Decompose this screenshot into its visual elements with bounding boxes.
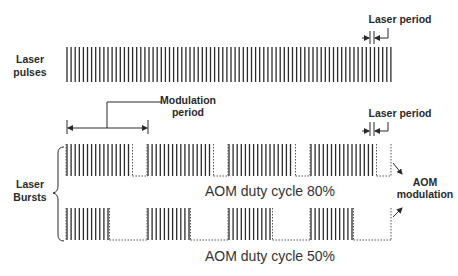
modulation-period-label-line2: period <box>172 106 204 118</box>
laser-bursts-label-line1: Laser <box>16 178 44 190</box>
aom-modulation-label-line1: AOM <box>413 176 438 188</box>
burst-row-duty-80 <box>66 144 391 176</box>
duty-cycle-50-caption: AOM duty cycle 50% <box>205 248 335 264</box>
laser-pulses-label-line2: pulses <box>13 66 46 78</box>
laser-pulses-label-line1: Laser <box>16 53 44 65</box>
laser-bursts-label-line2: Bursts <box>13 191 46 203</box>
modulation-period-dimension <box>67 102 162 134</box>
aom-modulation-label-line2: modulation <box>397 188 454 200</box>
duty-cycle-80-caption: AOM duty cycle 80% <box>205 183 335 199</box>
laser-period-dimension-bottom <box>362 122 388 136</box>
laser-period-label-bottom: Laser period <box>368 107 431 119</box>
modulation-period-label-line1: Modulation <box>160 94 216 106</box>
burst-row-duty-50 <box>66 208 391 240</box>
curly-brace-icon <box>53 147 64 241</box>
laser-period-label-top: Laser period <box>368 13 431 25</box>
aom-laser-burst-diagram: Laser pulses Laser Bursts Laser period M… <box>0 0 458 276</box>
laser-pulse-train <box>67 47 391 82</box>
laser-period-dimension-top <box>362 28 388 44</box>
